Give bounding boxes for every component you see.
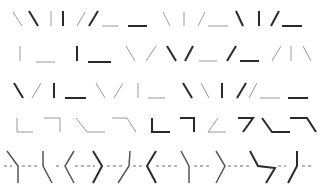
- line-stimulus-figure: [0, 0, 322, 193]
- figure-background: [0, 0, 322, 193]
